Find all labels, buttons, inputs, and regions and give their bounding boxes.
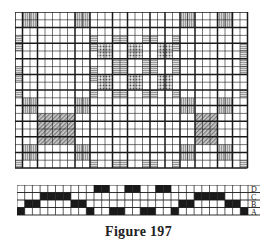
draft-cell-filled [48,193,56,201]
draft-cell-filled [210,193,218,201]
draft-cell-filled [117,208,125,216]
draft-cell-filled [86,208,94,216]
draft-cell-filled [79,200,87,208]
draft-cell-filled [133,185,141,193]
draft-cell-filled [163,185,171,193]
draft-cell-filled [179,200,187,208]
draft-cell-filled [71,200,79,208]
draft-cell-filled [109,208,117,216]
threading-draft: DCBA [17,185,275,219]
draft-cell-filled [156,185,164,193]
shaded-block-horizontal [15,90,23,98]
draft-cell-filled [186,200,194,208]
draft-cell-filled [94,185,102,193]
draft-cell-filled [40,193,48,201]
shaded-block-horizontal [240,160,248,168]
shaded-block-horizontal [173,160,181,168]
figure-caption: Figure 197 [0,224,277,240]
draft-cell-filled [25,200,33,208]
draft-cell-filled [217,193,225,201]
draft-cell-filled [202,193,210,201]
draft-cell-filled [102,185,110,193]
shaded-block-horizontal [90,90,98,98]
draft-cell-filled [148,208,156,216]
shaded-block-horizontal [15,160,23,168]
draft-cell-filled [240,208,248,216]
draft-cell-filled [225,200,233,208]
draft-cell-filled [17,208,25,216]
draft-cell-filled [233,200,241,208]
draft-cell-filled [56,193,64,201]
draft-cell-filled [125,185,133,193]
shaded-block-horizontal [173,90,181,98]
shaded-block-horizontal [90,160,98,168]
draft-cell-filled [194,193,202,201]
draft-cell-filled [32,200,40,208]
profile-grid [15,12,251,172]
shaded-block-horizontal [240,90,248,98]
draft-cell-filled [171,208,179,216]
draft-cell-filled [140,208,148,216]
draft-cell-filled [63,193,71,201]
